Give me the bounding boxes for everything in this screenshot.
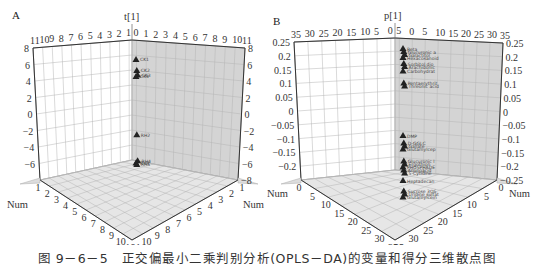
top-right-tick: 9	[222, 34, 227, 45]
top-right-tick: 0	[409, 26, 414, 37]
right-vertical-tick: 0.15	[505, 65, 523, 76]
top-left-tick: 5	[374, 26, 379, 37]
point-label: RH2	[141, 133, 151, 138]
left-vertical-tick: −0.1	[277, 134, 295, 145]
top-right-tick: 5	[422, 26, 427, 37]
right-vertical-tick: −2	[244, 126, 255, 137]
top-left-tick: 4	[97, 30, 102, 41]
right-vertical-tick: −4	[243, 142, 254, 153]
floor-left-tick: 15	[334, 208, 344, 219]
point-label: Heptadecan	[407, 179, 434, 184]
right-vertical-tick: −6	[242, 159, 253, 170]
floor-right-tick: 8	[165, 224, 170, 235]
top-left-tick: 5	[88, 30, 93, 41]
right-vertical-tick: 0.05	[504, 93, 521, 104]
top-left-tick: 3	[107, 29, 112, 40]
top-right-tick: 6	[193, 32, 198, 43]
right-vertical-tick: −0.15	[501, 148, 524, 159]
point-label: Glutamylcein	[407, 195, 437, 200]
panel-a-svg: A t[1] Num Num 1110987654321012345678910…	[0, 0, 267, 245]
right-vertical-tick: −0.05	[502, 120, 525, 131]
left-vertical-tick: −0.05	[271, 120, 294, 131]
top-right-tick: 7	[203, 32, 208, 43]
floor-right-tick: 25	[423, 225, 433, 236]
top-left-tick: 0	[388, 25, 393, 36]
point-label: CK4	[140, 74, 149, 79]
left-vertical-tick: −2	[23, 126, 34, 137]
floor-left-tick: 5	[310, 191, 315, 202]
top-right-tick: 10	[232, 34, 242, 45]
panel-a-scores-3d-scatter: A t[1] Num Num 1110987654321012345678910…	[0, 0, 267, 245]
floor-right-tick: 7	[176, 218, 181, 229]
top-left-tick: 30	[305, 28, 315, 39]
right-vertical-tick: 4	[246, 76, 251, 87]
floor-left-tick: 6	[82, 212, 87, 223]
floor-right-tick: 35	[394, 242, 404, 245]
panel-b-svg: B p[1] Num Num 3530252015105050510152025…	[267, 0, 534, 245]
top-right-tick: 20	[461, 28, 471, 39]
panel-b-loadings-3d-scatter: B p[1] Num Num 3530252015105050510152025…	[267, 0, 534, 245]
top-left-tick: 15	[346, 27, 356, 38]
top-right-tick: 5	[396, 25, 401, 36]
top-left-tick: 9	[49, 33, 54, 44]
top-right-tick: 15	[448, 28, 458, 39]
floor-right-tick: 9	[155, 230, 160, 241]
floor-right-tick: 11	[131, 242, 141, 245]
floor-right-tick: 30	[409, 233, 419, 244]
top-left-tick: 1	[126, 27, 131, 38]
right-vertical-tick: 6	[247, 60, 252, 71]
floor-left-tick: 3	[54, 194, 59, 205]
floor-right-tick: 10	[142, 236, 152, 245]
right-vertical-tick: −0.2	[501, 161, 519, 172]
right-vertical-tick: 0	[245, 109, 250, 120]
left-vertical-tick: −6	[24, 159, 35, 170]
top-left-tick: 6	[78, 31, 83, 42]
floor-left-tick: 4	[63, 200, 68, 211]
top-left-tick: 7	[68, 32, 73, 43]
point-label: CK1	[140, 57, 149, 62]
floor-left-tick: 10	[321, 199, 331, 210]
top-right-tick: 4	[173, 30, 178, 41]
top-left-tick: 8	[59, 33, 64, 44]
left-vertical-tick: −4	[24, 142, 35, 153]
top-right-tick: 1	[143, 28, 148, 39]
floor-right-tick: 6	[187, 212, 192, 223]
floor-right-tick: 10	[467, 199, 477, 210]
floor-right-tick: 4	[208, 200, 213, 211]
top-right-tick: 30	[487, 29, 497, 40]
point-label: 5-Cytidine	[409, 171, 432, 176]
floor-left-tick: 9	[109, 230, 114, 241]
floor-left-axis-label: Num	[267, 188, 288, 199]
top-right-tick: 0	[134, 27, 139, 38]
vertical-axis-title: t[1]	[124, 11, 139, 22]
floor-right-tick: 3	[218, 194, 223, 205]
top-left-tick: 25	[319, 28, 329, 39]
right-vertical-tick: 0.2	[505, 52, 518, 63]
left-vertical-tick: 0.05	[275, 92, 293, 103]
floor-left-tick: 8	[100, 224, 105, 235]
floor-left-tick: 5	[72, 206, 77, 217]
floor-right-tick: 2	[229, 188, 234, 199]
point-label: Threonic acid	[408, 84, 439, 89]
left-vertical-tick: 2	[27, 93, 32, 104]
floor-right-tick: 0	[499, 182, 504, 193]
floor-right-tick: 5	[197, 206, 202, 217]
left-vertical-tick: 0	[28, 109, 33, 120]
left-vertical-tick: 0.2	[278, 51, 291, 62]
top-left-tick: 20	[333, 27, 343, 38]
floor-left-tick: 20	[348, 216, 358, 227]
point-label: DMP	[407, 134, 417, 139]
left-vertical-tick: 0.25	[273, 37, 291, 48]
floor-right-axis-label: Num	[243, 199, 264, 210]
floor-right-axis-label: Num	[509, 188, 530, 199]
top-right-tick: 25	[474, 29, 484, 40]
top-left-tick: 35	[291, 29, 301, 40]
left-wall	[294, 38, 395, 180]
top-right-tick: 10	[435, 27, 445, 38]
floor-right-tick: 15	[452, 208, 462, 219]
floor-left-tick: 30	[375, 233, 385, 244]
floor-right-tick: 5	[484, 191, 489, 202]
left-vertical-tick: 8	[24, 43, 29, 54]
left-vertical-tick: 0.1	[280, 78, 293, 89]
right-vertical-tick: −0.1	[502, 134, 520, 145]
